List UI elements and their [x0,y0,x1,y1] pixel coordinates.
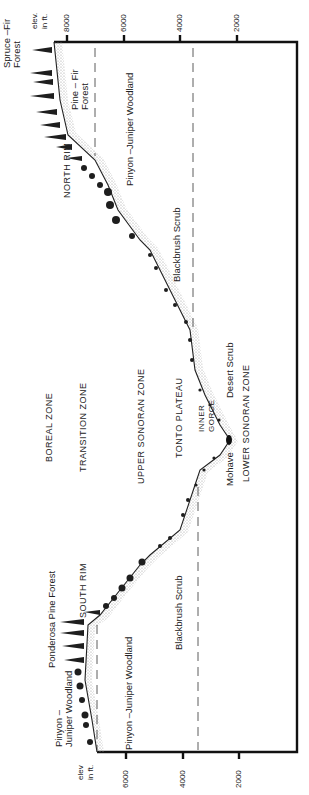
tick-label-6000-bottom: 6000 [121,770,131,788]
label-blackbrush-south: Blackbrush Scrub [174,576,184,650]
canyon-profile-diagram: elev. in ft. 8000 6000 4000 2000 elev in… [0,0,309,795]
label-boreal-zone: BOREAL ZONE [44,393,54,462]
label-pine-fir-forest: Pine – Fir Forest [70,69,90,110]
label-lower-sonoran-zone: LOWER SONORAN ZONE [241,364,251,482]
tick-label-4000-top: 4000 [175,14,185,32]
label-pinyon-juniper-south-outer: Pinyon – Juniper Woodland [54,671,74,747]
colorado-river [226,435,232,445]
label-ponderosa-pine-forest: Ponderosa Pine Forest [47,571,57,668]
label-pinyon-juniper-north: Pinyon –Juniper Woodland [125,73,135,186]
label-desert-scrub: Desert Scrub [225,343,235,398]
tick-label-6000-top: 6000 [119,14,129,32]
label-blackbrush-north: Blackbrush Scrub [172,208,182,282]
elevation-axis-label-bottom: elev in ft. [76,765,96,780]
label-upper-sonoran-zone: UPPER SONORAN ZONE [136,368,146,484]
label-pinyon-juniper-south-inner: Pinyon –Juniper Woodland [124,637,134,750]
tick-label-8000: 8000 [62,14,72,32]
label-south-rim: SOUTH RIM [78,563,88,618]
label-north-rim: NORTH RIM [62,143,72,198]
elevation-axis-label-top: elev. in ft. [30,13,50,29]
label-spruce-fir-forest: Spruce –Fir Forest [2,19,22,68]
label-tonto-plateau: TONTO PLATEAU [174,377,184,458]
tick-label-2000-bottom: 2000 [234,770,244,788]
tick-label-4000-bottom: 4000 [178,770,188,788]
label-inner-gorge: INNER GORGE [197,400,217,432]
tick-label-2000-top: 2000 [232,14,242,32]
label-mohave: Mohave [225,452,235,486]
label-transition-zone: TRANSITION ZONE [78,382,88,472]
